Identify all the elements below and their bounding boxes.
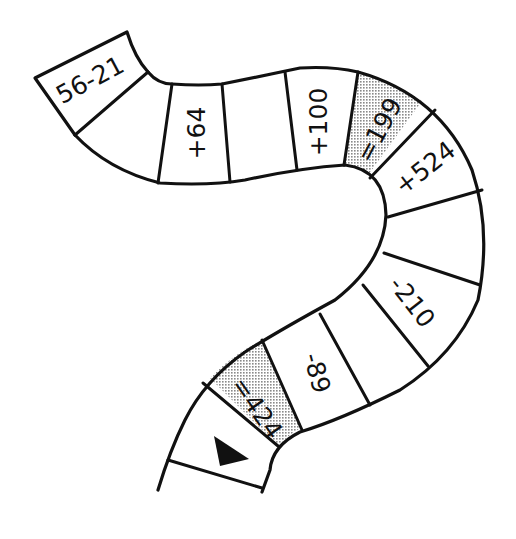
cell-label-plus-64: +64 [182, 107, 211, 160]
divider-2 [222, 84, 230, 182]
divider-1 [158, 84, 172, 183]
cell-label-minus-89: -89 [298, 350, 337, 397]
divider-12 [168, 460, 262, 488]
game-board: 56-21 +64 +100 =199 +524 -210 -89 =424 [0, 0, 516, 539]
path-edge-a [75, 135, 386, 490]
arrow-triangle-icon [214, 436, 249, 466]
cell-label-plus-100: +100 [304, 88, 333, 157]
divider-3 [285, 72, 297, 170]
cell-label-minus-210: -210 [383, 271, 441, 334]
cell-label-start: 56-21 [51, 50, 129, 110]
